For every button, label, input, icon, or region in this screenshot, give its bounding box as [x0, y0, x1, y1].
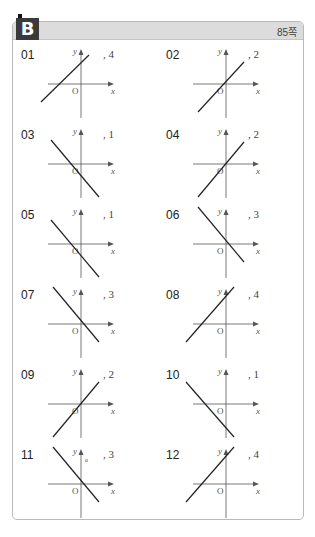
- graph-plot: yxO: [178, 442, 268, 522]
- problem-number: 11: [21, 448, 33, 462]
- svg-text:y: y: [217, 46, 222, 56]
- svg-text:x: x: [110, 86, 115, 96]
- svg-text:O: O: [217, 246, 224, 256]
- svg-text:x: x: [255, 486, 260, 496]
- problem-10: 10, 1yxO: [158, 362, 303, 442]
- svg-text:x: x: [110, 166, 115, 176]
- svg-text:y: y: [217, 286, 222, 296]
- function-line: [186, 382, 234, 437]
- function-line: [53, 382, 99, 437]
- svg-text:x: x: [255, 406, 260, 416]
- graph-plot: yxO: [33, 362, 123, 442]
- svg-text:x: x: [255, 326, 260, 336]
- svg-text:x: x: [255, 86, 260, 96]
- problem-09: 09, 2yxO: [13, 362, 158, 442]
- problem-07: 07, 3yxO: [13, 282, 158, 362]
- graph-plot: yxO: [178, 122, 268, 202]
- svg-text:O: O: [217, 486, 224, 496]
- card-header: B 85쪽: [13, 22, 303, 40]
- svg-text:O: O: [72, 166, 79, 176]
- svg-text:O: O: [217, 326, 224, 336]
- problem-04: 04, 2yxO: [158, 122, 303, 202]
- svg-text:y: y: [217, 126, 222, 136]
- svg-text:y: y: [72, 446, 77, 456]
- graph-plot: yxO: [178, 362, 268, 442]
- svg-text:y: y: [217, 206, 222, 216]
- problem-03: 03, 1yxO: [13, 122, 158, 202]
- problem-02: 02, 2yxO: [158, 42, 303, 122]
- svg-text:O: O: [72, 86, 79, 96]
- problem-11: 11, 3yxOa: [13, 442, 158, 522]
- svg-text:y: y: [72, 206, 77, 216]
- svg-text:x: x: [110, 406, 115, 416]
- function-line: [51, 220, 99, 277]
- svg-text:O: O: [72, 246, 79, 256]
- function-line: [198, 62, 244, 112]
- svg-text:y: y: [217, 366, 222, 376]
- graph-plot: yxO: [33, 42, 123, 122]
- svg-text:O: O: [217, 406, 224, 416]
- problem-01: 01, 4yxO: [13, 42, 158, 122]
- graph-plot: yxO: [33, 202, 123, 282]
- function-line: [41, 55, 89, 102]
- graph-plot: yxO: [33, 122, 123, 202]
- graph-plot: yxO: [178, 42, 268, 122]
- graph-plot: yxOa: [33, 442, 123, 522]
- svg-text:y: y: [72, 46, 77, 56]
- svg-text:O: O: [72, 326, 79, 336]
- graph-plot: yxO: [178, 282, 268, 362]
- problem-06: 06, 3yxO: [158, 202, 303, 282]
- svg-text:y: y: [72, 366, 77, 376]
- function-line: [51, 140, 99, 197]
- svg-text:O: O: [72, 486, 79, 496]
- section-badge: B: [16, 18, 39, 40]
- svg-text:x: x: [255, 166, 260, 176]
- svg-text:a: a: [85, 457, 88, 463]
- svg-text:x: x: [110, 486, 115, 496]
- svg-text:x: x: [110, 246, 115, 256]
- svg-text:y: y: [217, 446, 222, 456]
- svg-text:x: x: [255, 246, 260, 256]
- page-reference: 85쪽: [277, 24, 297, 39]
- graph-plot: yxO: [33, 282, 123, 362]
- svg-text:x: x: [110, 326, 115, 336]
- function-line: [198, 142, 244, 197]
- graph-plot: yxO: [178, 202, 268, 282]
- function-line: [186, 447, 234, 502]
- problem-12: 12, 4yxO: [158, 442, 303, 522]
- function-line: [186, 287, 234, 342]
- problem-08: 08, 4yxO: [158, 282, 303, 362]
- problem-05: 05, 1yxO: [13, 202, 158, 282]
- svg-text:y: y: [72, 286, 77, 296]
- svg-text:y: y: [72, 126, 77, 136]
- answer-card: B 85쪽 01, 4yxO02, 2yxO03, 1yxO04, 2yxO05…: [12, 21, 304, 520]
